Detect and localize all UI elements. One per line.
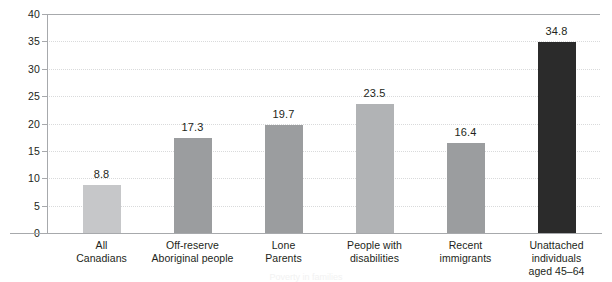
y-tick-label-25: 25 bbox=[14, 91, 40, 102]
bar-value-label: 8.8 bbox=[72, 169, 132, 180]
bar bbox=[447, 143, 485, 233]
bar-value-label: 16.4 bbox=[436, 127, 496, 138]
category-label: AllCanadians bbox=[50, 239, 153, 265]
bar bbox=[83, 185, 121, 233]
category-label-line: Off-reserve bbox=[141, 239, 244, 252]
bar-chart: 4035302520151050 8.817.319.723.516.434.8… bbox=[0, 0, 612, 282]
category-label: Off-reserveAboriginal people bbox=[141, 239, 244, 265]
category-label: Recentimmigrants bbox=[414, 239, 517, 265]
category-label-line: Unattached individuals bbox=[505, 239, 608, 265]
bar-value-label: 17.3 bbox=[163, 122, 223, 133]
y-tick-label-40: 40 bbox=[14, 9, 40, 20]
bar bbox=[538, 42, 576, 233]
y-tick-label-35: 35 bbox=[14, 36, 40, 47]
bar bbox=[174, 138, 212, 233]
category-label-line: Lone bbox=[232, 239, 335, 252]
bar-value-label: 23.5 bbox=[345, 88, 405, 99]
bar bbox=[265, 125, 303, 233]
category-label-line: Parents bbox=[232, 252, 335, 265]
y-tick-label-30: 30 bbox=[14, 64, 40, 75]
category-label: People withdisabilities bbox=[323, 239, 426, 265]
bottom-caption: Poverty in families bbox=[0, 273, 612, 282]
y-tick-label-5: 5 bbox=[14, 201, 40, 212]
category-label-line: All bbox=[50, 239, 153, 252]
bar bbox=[356, 104, 394, 233]
plot-area bbox=[47, 14, 600, 233]
y-tick-label-10: 10 bbox=[14, 173, 40, 184]
bar-value-label: 19.7 bbox=[254, 109, 314, 120]
x-axis-line bbox=[10, 233, 602, 234]
category-label-line: Aboriginal people bbox=[141, 252, 244, 265]
y-tick-label-15: 15 bbox=[14, 146, 40, 157]
category-label-line: immigrants bbox=[414, 252, 517, 265]
category-label-line: disabilities bbox=[323, 252, 426, 265]
category-label-line: Recent bbox=[414, 239, 517, 252]
category-label-line: Canadians bbox=[50, 252, 153, 265]
category-label-line: People with bbox=[323, 239, 426, 252]
category-label: LoneParents bbox=[232, 239, 335, 265]
y-tick-label-20: 20 bbox=[14, 119, 40, 130]
bar-value-label: 34.8 bbox=[527, 26, 587, 37]
